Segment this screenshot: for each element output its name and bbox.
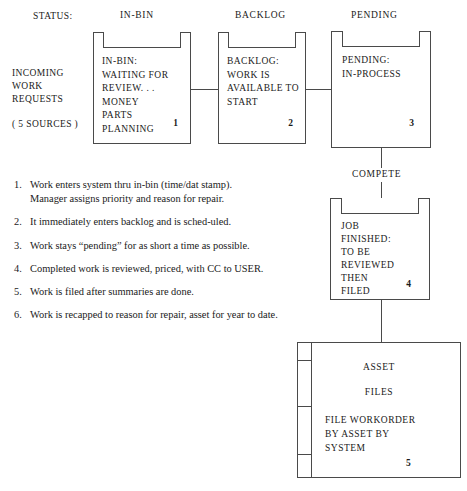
box-complete[interactable]: JOB FINISHED: TO BE REVIEWED THEN FILED … — [330, 198, 430, 300]
clipboard-tab-icon — [103, 32, 181, 48]
list-item: 3. Work stays “pending” for as short a t… — [8, 239, 284, 253]
box-asset-files[interactable]: ASSET FILES FILE WORKORDER BY ASSET BY S… — [297, 342, 461, 478]
list-item-subtext: Manager assigns priority and reason for … — [30, 192, 284, 206]
box-complete-number: 4 — [406, 279, 411, 289]
list-item: 6. Work is recapped to reason for repair… — [8, 308, 284, 322]
incoming-work-line-2: WORK — [12, 80, 43, 93]
list-item-text: Work is filed after summaries are done. — [30, 286, 194, 297]
workflow-diagram: STATUS: IN-BIN BACKLOG PENDING INCOMING … — [0, 0, 467, 491]
list-item: 4. Completed work is reviewed, priced, w… — [8, 262, 284, 276]
list-item-number: 3. — [14, 239, 28, 253]
column-header-in-bin: IN-BIN — [120, 10, 154, 20]
list-item-text: Work enters system thru in-bin (time/dat… — [30, 179, 232, 190]
box-pending-text: PENDING: IN-PROCESS — [342, 54, 426, 81]
incoming-work-sources-count: ( 5 SOURCES ) — [12, 118, 78, 131]
list-item: 5. Work is filed after summaries are don… — [8, 285, 284, 299]
file-drawer-icon — [298, 343, 312, 361]
clipboard-tab-icon — [341, 198, 419, 214]
connector-pending-to-compete — [381, 148, 382, 168]
connector-complete-to-asset-files — [381, 300, 382, 342]
box-backlog-number: 2 — [288, 118, 293, 128]
box-complete-text: JOB FINISHED: TO BE REVIEWED THEN FILED — [341, 220, 425, 298]
column-header-pending: PENDING — [351, 10, 398, 20]
column-header-backlog: BACKLOG — [235, 10, 286, 20]
clipboard-tab-icon — [228, 32, 296, 48]
list-item: 1. Work enters system thru in-bin (time/… — [8, 178, 284, 206]
list-item-text: Work stays “pending” for as short a time… — [30, 240, 250, 251]
list-item-text: Completed work is reviewed, priced, with… — [30, 263, 263, 274]
connector-backlog-to-pending — [306, 89, 331, 90]
incoming-work-line-1: INCOMING — [12, 67, 64, 80]
list-item-number: 4. — [14, 262, 28, 276]
box-backlog-text: BACKLOG: WORK IS AVAILABLE TO START — [227, 55, 301, 109]
list-item-number: 1. — [14, 178, 28, 192]
list-item-number: 2. — [14, 215, 28, 229]
box-pending-number: 3 — [409, 118, 414, 128]
asset-files-text: FILE WORKORDER BY ASSET BY SYSTEM — [325, 413, 415, 455]
asset-files-heading-2: FILES — [298, 387, 460, 397]
connector-compete-to-complete-box — [381, 182, 382, 198]
list-item-text: Work is recapped to reason for repair, a… — [30, 309, 278, 320]
incoming-work-line-3: REQUESTS — [12, 93, 63, 106]
box-backlog[interactable]: BACKLOG: WORK IS AVAILABLE TO START 2 — [218, 32, 306, 144]
list-item-number: 5. — [14, 285, 28, 299]
list-item: 2. It immediately enters backlog and is … — [8, 215, 284, 229]
compete-label: COMPETE — [352, 169, 401, 179]
clipboard-tab-icon — [342, 31, 420, 47]
file-drawer-icon — [298, 407, 312, 455]
connector-in-bin-to-backlog — [191, 89, 218, 90]
asset-files-heading-1: ASSET — [298, 362, 460, 372]
asset-files-number: 5 — [406, 458, 411, 468]
box-pending[interactable]: PENDING: IN-PROCESS 3 — [331, 31, 431, 148]
status-label: STATUS: — [33, 10, 73, 23]
box-in-bin-number: 1 — [173, 118, 178, 128]
process-notes-list: 1. Work enters system thru in-bin (time/… — [8, 178, 284, 331]
list-item-number: 6. — [14, 308, 28, 322]
list-item-text: It immediately enters backlog and is sch… — [30, 216, 231, 227]
box-in-bin[interactable]: IN-BIN: WAITING FOR REVIEW. . . MONEY PA… — [93, 32, 191, 144]
